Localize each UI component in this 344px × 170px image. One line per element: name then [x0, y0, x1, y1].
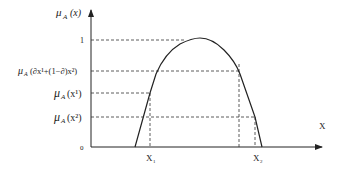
- svg-text:A: A: [60, 93, 66, 101]
- y-tick-1: 1: [80, 36, 84, 45]
- svg-text:1: 1: [153, 159, 156, 164]
- membership-curve: [135, 38, 262, 147]
- svg-text:X: X: [146, 153, 153, 163]
- svg-text:(x²): (x²): [67, 112, 82, 124]
- y-axis-title: μ A (x): [55, 6, 82, 21]
- svg-text:(x): (x): [70, 7, 82, 19]
- svg-text:(x¹): (x¹): [67, 88, 82, 100]
- svg-text:μ: μ: [55, 6, 62, 18]
- y-tick-convex-combination: μ A (∂x¹+(1−∂)x²): [17, 65, 77, 77]
- svg-text:μ: μ: [53, 110, 60, 124]
- x-axis-title: X: [319, 121, 326, 131]
- svg-text:A: A: [60, 117, 66, 125]
- fuzzy-membership-diagram: μ A (x) 1 μ A (∂x¹+(1−∂)x²) μ A (x¹) μ A…: [0, 0, 344, 170]
- svg-text:X: X: [253, 153, 260, 163]
- x-tick-x2: X 2: [253, 153, 263, 164]
- y-tick-mu-x2: μ A (x²): [53, 110, 82, 125]
- y-tick-mu-x1: μ A (x¹): [53, 86, 82, 101]
- x-tick-x1: X 1: [146, 153, 156, 164]
- svg-text:μ: μ: [17, 65, 23, 76]
- svg-text:μ: μ: [53, 86, 60, 100]
- svg-text:A: A: [23, 71, 28, 77]
- svg-text:2: 2: [260, 159, 263, 164]
- svg-text:(∂x¹+(1−∂)x²): (∂x¹+(1−∂)x²): [30, 66, 77, 76]
- svg-text:A: A: [62, 13, 68, 21]
- y-tick-0: 0: [80, 144, 84, 152]
